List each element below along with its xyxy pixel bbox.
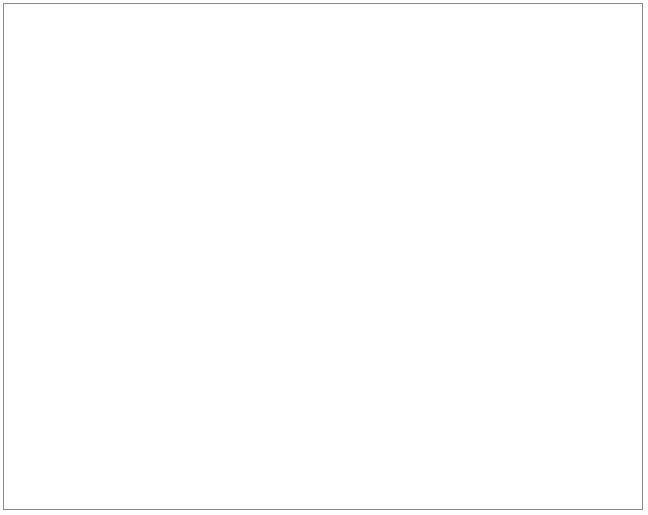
chart-canvas — [0, 0, 648, 515]
sleep-chart-figure — [0, 0, 648, 515]
